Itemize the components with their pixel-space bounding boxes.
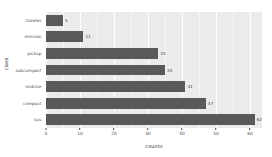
- x-axis-tick: 40: [179, 128, 185, 136]
- x-axis-title: counts: [46, 143, 262, 149]
- x-axis-tick-mark: [148, 128, 149, 130]
- x-axis-tick-mark: [80, 128, 81, 130]
- bar-row: 41: [46, 78, 262, 95]
- x-axis-tick-mark: [216, 128, 217, 130]
- bar-row: 62: [46, 111, 262, 128]
- y-axis-tick-label: pickup: [10, 45, 44, 62]
- y-axis-tick-label: suv: [10, 111, 44, 128]
- bar: [46, 114, 255, 125]
- x-axis-tick-text: 60: [247, 131, 253, 136]
- x-axis-tick-text: 0: [45, 131, 48, 136]
- bar: [46, 31, 83, 42]
- x-axis-title-text: counts: [145, 143, 162, 149]
- bar: [46, 48, 158, 59]
- x-axis-tick: 0: [45, 128, 48, 136]
- x-axis-tick-mark: [182, 128, 183, 130]
- x-axis-tick: 10: [77, 128, 83, 136]
- x-axis-tick-mark: [250, 128, 251, 130]
- bar-row: 11: [46, 29, 262, 46]
- x-axis-tick-mark: [114, 128, 115, 130]
- bar-value-label: 41: [187, 84, 192, 89]
- bar-chart: class 2seaterminivanpickupsubcompactmids…: [0, 0, 272, 157]
- bar-row: 5: [46, 12, 262, 29]
- bar-row: 33: [46, 45, 262, 62]
- bar-value-label: 47: [208, 101, 213, 106]
- x-axis-tick-labels: 0102030405060: [46, 128, 262, 140]
- x-axis-tick-text: 50: [213, 131, 219, 136]
- bar: [46, 98, 206, 109]
- bar-value-label: 5: [65, 18, 68, 23]
- y-axis-tick-label: midsize: [10, 78, 44, 95]
- bar-value-label: 33: [160, 51, 165, 56]
- x-axis-tick: 20: [111, 128, 117, 136]
- bar: [46, 65, 165, 76]
- y-axis-tick-labels: 2seaterminivanpickupsubcompactmidsizecom…: [10, 12, 44, 128]
- bar-value-label: 35: [167, 68, 172, 73]
- y-axis-tick-label: minivan: [10, 29, 44, 46]
- x-axis-tick: 30: [145, 128, 151, 136]
- bar: [46, 15, 63, 26]
- bar-value-label: 62: [257, 117, 262, 122]
- x-axis-tick-text: 40: [179, 131, 185, 136]
- plot-panel: 5113335414762: [46, 12, 262, 128]
- y-axis-tick-label: compact: [10, 95, 44, 112]
- x-axis-tick-text: 30: [145, 131, 151, 136]
- bar-row: 47: [46, 95, 262, 112]
- bar-series: 5113335414762: [46, 12, 262, 128]
- bar-row: 35: [46, 62, 262, 79]
- x-axis-tick-text: 20: [111, 131, 117, 136]
- bar: [46, 81, 185, 92]
- bar-value-label: 11: [85, 34, 90, 39]
- x-axis-tick-mark: [46, 128, 47, 130]
- y-axis-tick-label: 2seater: [10, 12, 44, 29]
- y-axis-tick-label: subcompact: [10, 62, 44, 79]
- y-axis-title-text: class: [3, 58, 9, 71]
- x-axis-tick-text: 10: [77, 131, 83, 136]
- x-axis-tick: 60: [247, 128, 253, 136]
- x-axis-tick: 50: [213, 128, 219, 136]
